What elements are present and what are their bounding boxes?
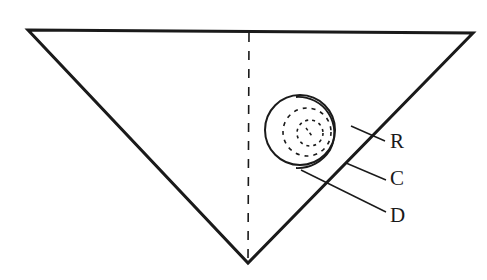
label-c: C	[390, 168, 404, 189]
dashed-inner-spiral	[306, 128, 312, 136]
offset-circle-arc	[296, 97, 334, 168]
outer-circle	[265, 95, 335, 165]
dashed-axis-line	[248, 33, 249, 262]
dashed-inner-circle-large	[283, 108, 331, 156]
leader-line-d	[301, 170, 386, 212]
leader-line-c	[346, 163, 386, 180]
diagram-canvas	[0, 0, 487, 280]
label-r: R	[390, 131, 404, 152]
label-d: D	[390, 205, 405, 226]
inverted-triangle	[28, 30, 473, 263]
